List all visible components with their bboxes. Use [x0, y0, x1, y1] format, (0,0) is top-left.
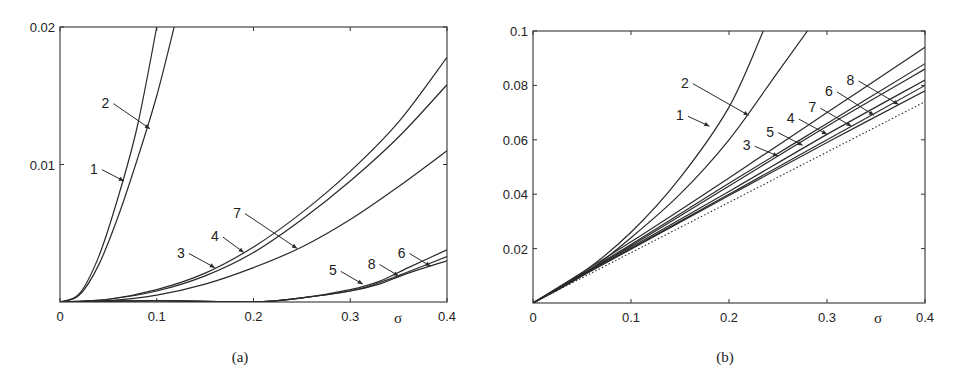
y-tick-label: 0.04 [503, 187, 528, 202]
x-tick-label: 0.3 [341, 309, 359, 324]
curve-8 [60, 250, 447, 302]
curve-label-1: 1 [90, 161, 98, 177]
curve-label-3: 3 [743, 137, 751, 153]
x-tick-label: 0.4 [438, 309, 456, 324]
curve-label-6: 6 [825, 83, 833, 99]
curve-label-4: 4 [787, 110, 795, 126]
figure: 00.10.20.30.40.010.0212347586σ(a) 00.10.… [0, 0, 954, 381]
x-tick-label: 0.1 [148, 309, 166, 324]
curve-label-6: 6 [398, 245, 406, 261]
panel-caption: (b) [716, 349, 734, 366]
arrowhead-icon [145, 124, 150, 129]
panel-caption: (a) [232, 349, 249, 366]
y-tick-label: 0.06 [503, 133, 528, 148]
curve-8 [533, 91, 925, 303]
curve-label-2: 2 [102, 95, 110, 111]
curve-label-4: 4 [211, 228, 219, 244]
x-axis-label: σ [394, 310, 402, 326]
y-tick-label: 0.01 [30, 158, 55, 173]
leader-line [113, 104, 150, 129]
curve-label-8: 8 [368, 256, 376, 272]
arrowhead-icon [869, 111, 874, 116]
panel-b-chart: 00.10.20.30.40.020.040.060.080.112354768… [503, 24, 934, 366]
x-tick-label: 0.1 [622, 310, 640, 325]
curve-label-3: 3 [177, 245, 185, 261]
x-tick-label: 0.2 [720, 310, 738, 325]
x-axis-label: σ [874, 310, 882, 326]
arrowhead-icon [292, 244, 297, 249]
curve-1 [60, 27, 157, 302]
panel-a-chart: 00.10.20.30.40.010.0212347586σ(a) [30, 20, 456, 366]
curve-label-5: 5 [766, 124, 774, 140]
curve-1 [533, 31, 763, 303]
curve-reference-dotted- [533, 102, 925, 303]
curve-label-7: 7 [808, 99, 816, 115]
y-tick-label: 0.08 [503, 78, 528, 93]
curve-6 [60, 261, 447, 302]
y-tick-label: 0.1 [510, 24, 528, 39]
plot-frame [60, 27, 447, 302]
x-tick-label: 0 [529, 310, 536, 325]
x-tick-label: 0.2 [244, 309, 262, 324]
curve-label-5: 5 [329, 262, 337, 278]
curve-3 [60, 57, 447, 302]
leader-line [693, 84, 749, 116]
arrowhead-icon [238, 248, 243, 253]
leader-line [837, 92, 874, 115]
curve-2 [533, 31, 807, 303]
curve-label-2: 2 [681, 75, 689, 91]
x-tick-label: 0 [56, 309, 63, 324]
curve-5 [60, 257, 447, 302]
x-tick-label: 0.3 [818, 310, 836, 325]
curve-label-8: 8 [847, 72, 855, 88]
y-tick-label: 0.02 [30, 20, 55, 35]
plot-frame [533, 31, 925, 303]
curve-label-1: 1 [676, 107, 684, 123]
y-tick-label: 0.02 [503, 242, 528, 257]
curve-7 [533, 80, 925, 303]
x-tick-label: 0.4 [916, 310, 934, 325]
leader-line [245, 214, 297, 249]
curve-label-7: 7 [233, 205, 241, 221]
curve-2 [60, 27, 174, 302]
